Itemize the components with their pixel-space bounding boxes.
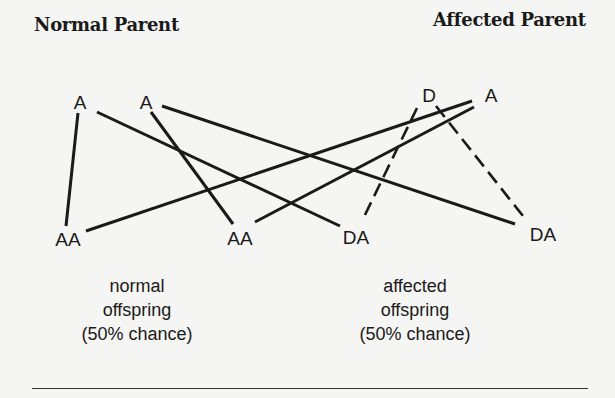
offspring-genotype-aa-2: AA [227,229,252,248]
connection-nA1-to-AA1 [66,113,78,226]
connection-nA2-to-AA2 [151,112,233,224]
bottom-divider [32,388,588,389]
connection-nA2-to-DA2 [162,106,515,224]
connection-nA1-to-DA1 [97,112,340,226]
normal-caption-line3: (50% chance) [81,322,192,346]
offspring-genotype-da-1: DA [343,228,369,247]
affected-offspring-caption: affected offspring (50% chance) [359,274,470,346]
affected-caption-line1: affected [359,274,470,298]
normal-caption-line1: normal [81,274,192,298]
connection-aD-to-DA1 [363,108,417,219]
affected-caption-line2: offspring [359,298,470,322]
connection-aA-to-AA1 [86,101,472,231]
normal-caption-line2: offspring [81,298,192,322]
affected-caption-line3: (50% chance) [359,322,470,346]
affected-parent-allele-d: D [422,86,436,105]
offspring-genotype-da-2: DA [530,225,556,244]
connection-aD-to-DA2 [436,106,523,216]
normal-parent-allele-1: A [74,93,87,112]
normal-parent-allele-2: A [140,93,153,112]
offspring-genotype-aa-1: AA [55,230,80,249]
affected-parent-allele-a: A [485,86,498,105]
normal-offspring-caption: normal offspring (50% chance) [81,274,192,346]
